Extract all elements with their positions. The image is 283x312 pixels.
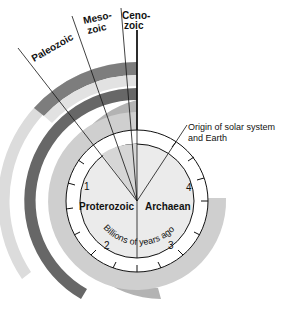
eon-label-proterozoic: Proterozoic — [79, 201, 134, 212]
era-label-cenozoic-2: zoic — [124, 20, 144, 31]
eon-label-archaean: Archaean — [145, 201, 191, 212]
dial-number-2: 2 — [104, 240, 110, 251]
dial-number-1: 1 — [84, 181, 90, 192]
geologic-time-clock-diagram: Ceno- zoic Meso- zoic Paleozoic 1 2 3 4 … — [0, 0, 283, 312]
dial-number-3: 3 — [168, 240, 174, 251]
era-label-paleozoic: Paleozoic — [30, 31, 76, 64]
diagram-canvas: Ceno- zoic Meso- zoic Paleozoic 1 2 3 4 … — [0, 0, 283, 312]
dial-number-4: 4 — [186, 182, 192, 193]
annotation-origin-line1: Origin of solar system — [188, 122, 275, 132]
annotation-origin-line2: and Earth — [188, 133, 227, 143]
